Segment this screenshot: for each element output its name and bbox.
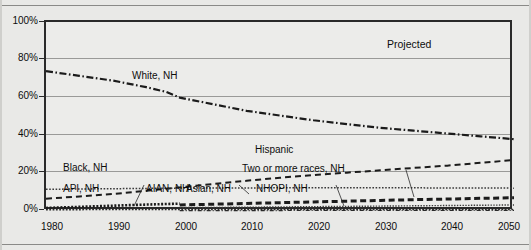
chart-figure: ETHNIC CONSIDERATIONS RESPONSE TO PRESCR… — [0, 0, 531, 250]
series-label-aian-nh: AIAN, NH — [146, 183, 189, 194]
series-label-two-or-more-races-nh: Two or more races, NH — [242, 163, 345, 174]
x-tick-label: 2030 — [363, 222, 409, 232]
x-tick-label: 2050 — [486, 222, 531, 232]
series-line-white-nh — [46, 71, 514, 139]
series-label-asian-nh: Asian, NH — [186, 183, 231, 194]
annotation-projected: Projected — [387, 39, 431, 50]
series-line-api-nh — [46, 204, 180, 208]
plot-area: Projected White, NH Hispanic Black, NH T… — [44, 20, 512, 209]
series-label-api-nh: API, NH — [63, 183, 99, 194]
x-tick-label: 1990 — [96, 222, 142, 232]
x-tick-label: 2000 — [163, 222, 209, 232]
series-line-two-or-more-races-nh — [180, 205, 514, 208]
x-tick-label: 2010 — [229, 222, 275, 232]
series-label-white-nh: White, NH — [132, 70, 178, 81]
series-line-asian-nh — [180, 198, 514, 205]
x-tick-label: 2020 — [296, 222, 342, 232]
series-label-black-nh: Black, NH — [63, 162, 107, 173]
x-tick-label: 1980 — [29, 222, 75, 232]
x-tick-label: 2040 — [429, 222, 475, 232]
series-label-nhopi-nh: NHOPI, NH — [256, 183, 308, 194]
series-label-hispanic: Hispanic — [255, 144, 293, 155]
